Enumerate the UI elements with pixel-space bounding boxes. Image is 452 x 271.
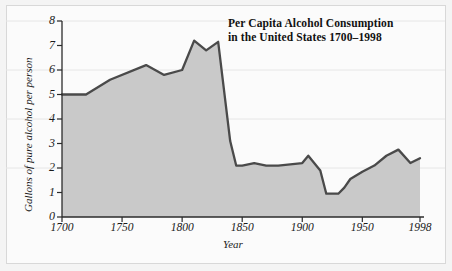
x-tick-label: 1800 <box>152 221 212 233</box>
y-tick-label: 4 <box>33 111 55 126</box>
y-tick-label: 7 <box>33 38 55 53</box>
y-tick-label: 5 <box>33 87 55 102</box>
chart-figure: Per Capita Alcohol Consumption in the Un… <box>0 0 452 271</box>
x-axis-label: Year <box>0 238 452 250</box>
x-tick-label: 1850 <box>212 221 272 233</box>
y-tick-marks <box>57 21 62 217</box>
x-tick-label: 1900 <box>272 221 332 233</box>
area-fill <box>62 41 420 217</box>
x-tick-label: 1700 <box>32 221 92 233</box>
chart-title: Per Capita Alcohol Consumption in the Un… <box>228 17 393 44</box>
y-tick-label: 8 <box>33 13 55 28</box>
chart-title-line-1: Per Capita Alcohol Consumption <box>228 17 393 31</box>
x-tick-label: 1950 <box>332 221 392 233</box>
x-tick-label: 1998 <box>390 221 450 233</box>
y-tick-label: 1 <box>33 185 55 200</box>
x-tick-label: 1750 <box>92 221 152 233</box>
chart-title-line-2: in the United States 1700–1998 <box>228 31 393 45</box>
y-tick-label: 2 <box>33 160 55 175</box>
y-tick-label: 3 <box>33 136 55 151</box>
y-tick-label: 6 <box>33 62 55 77</box>
